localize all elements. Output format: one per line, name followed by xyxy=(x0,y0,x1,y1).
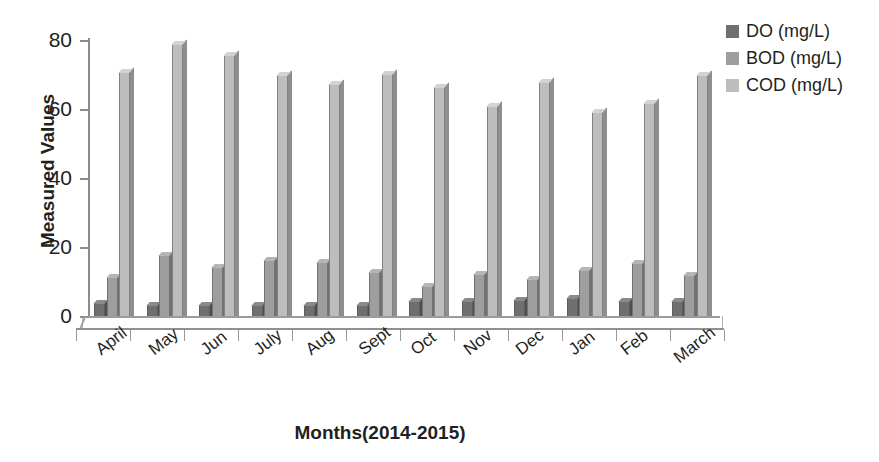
x-axis-tick-mark xyxy=(562,330,563,341)
bar xyxy=(487,106,498,322)
bar xyxy=(224,55,235,322)
x-axis-tick-label: Jun xyxy=(197,327,231,360)
bar-face xyxy=(119,72,130,322)
legend-item[interactable]: COD (mg/L) xyxy=(726,72,876,99)
bar-group xyxy=(94,38,147,322)
bar-chart: Measured Values 020406080 AprilMayJunJul… xyxy=(0,0,879,462)
y-axis-tick-label: 80 xyxy=(28,29,72,50)
bar xyxy=(539,82,550,322)
bar-group xyxy=(252,38,305,322)
bar-group xyxy=(672,38,725,322)
x-axis-tick-mark xyxy=(508,330,509,341)
bar xyxy=(212,267,223,322)
bar xyxy=(159,255,170,322)
bar-face xyxy=(697,75,708,322)
bar-face xyxy=(212,267,223,322)
bar-face xyxy=(159,255,170,322)
bar xyxy=(697,75,708,322)
bar-group xyxy=(514,38,567,322)
bar xyxy=(382,74,393,322)
y-axis-tick-label: 20 xyxy=(28,236,72,257)
x-axis-tick-label: Oct xyxy=(407,328,440,360)
legend-item[interactable]: DO (mg/L) xyxy=(726,18,876,45)
bar-group xyxy=(304,38,357,322)
bar-face xyxy=(382,74,393,322)
bar-face xyxy=(632,263,643,322)
x-axis-tick-label: July xyxy=(250,325,286,359)
plot-floor-right-edge xyxy=(712,316,723,328)
x-axis-tick-mark xyxy=(400,330,401,341)
bar-side xyxy=(655,98,659,320)
x-axis-tick-mark xyxy=(238,330,239,341)
bar-side xyxy=(288,71,292,320)
bar xyxy=(434,87,445,322)
legend-label: BOD (mg/L) xyxy=(746,48,842,69)
bar-side xyxy=(130,67,134,320)
legend-item[interactable]: BOD (mg/L) xyxy=(726,45,876,72)
y-axis-tick-label: 60 xyxy=(28,98,72,119)
x-axis-tick-mark xyxy=(454,330,455,341)
bar-face xyxy=(474,274,485,322)
bar-group xyxy=(462,38,515,322)
bar-side xyxy=(708,71,712,320)
bar xyxy=(329,84,340,322)
y-axis-tick-label: 0 xyxy=(28,305,72,326)
bar-side xyxy=(603,107,607,320)
bar-top-cap xyxy=(591,109,606,113)
x-axis-tick-label: Nov xyxy=(460,325,496,359)
bar-side xyxy=(340,79,344,320)
x-axis-tick-mark xyxy=(670,330,671,341)
bar xyxy=(172,44,183,322)
bar-group xyxy=(619,38,672,322)
bar xyxy=(264,260,275,322)
legend-label: DO (mg/L) xyxy=(746,21,830,42)
bar-face xyxy=(644,103,655,322)
bar-face xyxy=(487,106,498,322)
y-axis-tick-label: 40 xyxy=(28,167,72,188)
bar-group xyxy=(409,38,462,322)
bar xyxy=(317,262,328,322)
x-axis-tick-mark xyxy=(184,330,185,341)
bar-face xyxy=(434,87,445,322)
bar-side xyxy=(498,102,502,320)
bar xyxy=(592,112,603,322)
bar-face xyxy=(277,75,288,322)
legend-swatch-icon xyxy=(726,25,739,38)
bar-group xyxy=(147,38,200,322)
legend-swatch-icon xyxy=(726,52,739,65)
bar-side xyxy=(445,83,449,320)
bar-face xyxy=(369,272,380,322)
x-axis-tick-label: Jan xyxy=(565,327,599,360)
bar xyxy=(119,72,130,322)
bar-face xyxy=(224,55,235,322)
bar-face xyxy=(264,260,275,322)
x-axis-tick-mark xyxy=(346,330,347,341)
chart-legend: DO (mg/L)BOD (mg/L)COD (mg/L) xyxy=(726,18,876,99)
x-axis-tick-label: Aug xyxy=(302,325,338,359)
bar-face xyxy=(592,112,603,322)
bar-side xyxy=(550,78,554,320)
bar-group xyxy=(199,38,252,322)
bar-side xyxy=(183,40,187,320)
legend-swatch-icon xyxy=(726,79,739,92)
bar-side xyxy=(235,50,239,320)
plot-area xyxy=(88,38,718,322)
bar xyxy=(369,272,380,322)
x-axis-tick-mark xyxy=(616,330,617,341)
bar-face xyxy=(329,84,340,322)
bar xyxy=(632,263,643,322)
bar-face xyxy=(539,82,550,322)
x-axis-tick-mark xyxy=(292,330,293,341)
bar-face xyxy=(317,262,328,322)
bar-face xyxy=(579,270,590,322)
bar-side xyxy=(393,69,397,320)
x-axis-tick-label: Dec xyxy=(512,325,548,359)
bar xyxy=(579,270,590,322)
bar xyxy=(644,103,655,322)
x-axis-tick-mark xyxy=(76,330,77,341)
bar xyxy=(277,75,288,322)
bar-face xyxy=(172,44,183,322)
bar-group xyxy=(567,38,620,322)
bar xyxy=(474,274,485,322)
x-axis-tick-label: Feb xyxy=(617,326,652,360)
